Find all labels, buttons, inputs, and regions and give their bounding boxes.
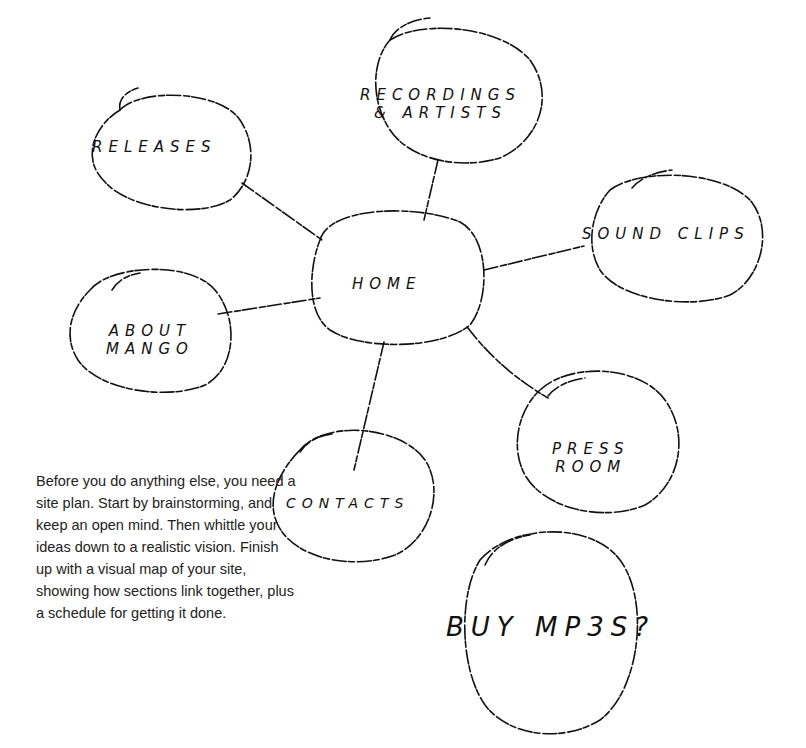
edge-home-releases [242,183,322,240]
about-label-line2: MANGO [106,340,194,358]
edge-home-soundclips [484,246,584,270]
recordings-label: RECORDINGS & ARTISTS [360,86,521,122]
about-label: ABOUT MANGO [106,322,194,358]
press-room-label: PRESS ROOM [552,440,629,476]
home-label: HOME [352,275,422,293]
edge-home-contacts [354,342,384,470]
press-room-label-line1: PRESS [552,440,629,458]
press-room-label-line2: ROOM [552,458,629,476]
edge-home-about [218,298,320,314]
buy-mp3s-label: BUY MP3S? [446,612,655,643]
recordings-label-line2: & ARTISTS [360,104,521,122]
contacts-label: CONTACTS [286,495,409,512]
edge-home-press [468,328,548,398]
caption-text: Before you do anything else, you need a … [36,470,296,624]
releases-label: RELEASES [92,138,217,156]
sound-clips-label: SOUND CLIPS [582,225,750,243]
about-label-line1: ABOUT [106,322,194,340]
edge-home-recordings [424,160,438,220]
recordings-label-line1: RECORDINGS [360,86,521,104]
